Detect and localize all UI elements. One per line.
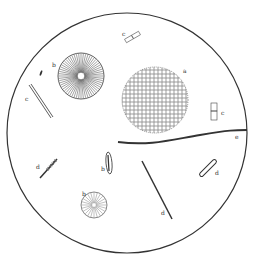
small-cell-mark (39, 70, 43, 76)
specimen-b-radial-disc-large: b (52, 53, 104, 99)
label-d: d (161, 209, 165, 216)
specimen-d-long-rod: d (142, 161, 172, 219)
label-c: c (122, 30, 126, 37)
specimen-a-dotted-sphere: a (122, 67, 188, 133)
label-e: e (235, 133, 239, 140)
specimen-c-frustule-right: c (211, 103, 225, 120)
label-c: c (221, 109, 225, 116)
specimen-c-rod-left: c (25, 84, 53, 118)
label-b: b (52, 61, 56, 68)
label-a: a (183, 67, 187, 74)
microscope-figure: a b b b c c c e (0, 0, 254, 263)
label-b: b (101, 165, 105, 172)
label-b: b (82, 190, 86, 197)
specimen-e-filament: e (118, 130, 247, 143)
label-c: c (25, 95, 29, 102)
label-d: d (36, 163, 40, 170)
label-d: d (215, 169, 219, 176)
specimen-c-chain-top: c (122, 30, 140, 43)
specimen-d-small-rod-left: d (36, 159, 57, 178)
specimen-b-elongated-cell: b (101, 152, 113, 174)
specimen-d-rod-right: d (199, 159, 219, 177)
specimen-b-radial-disc-small: b (81, 190, 107, 218)
